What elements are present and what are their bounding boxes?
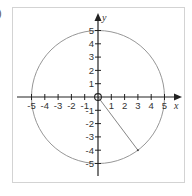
svg-text:-2: -2 — [67, 100, 75, 111]
svg-text:-4: -4 — [41, 100, 49, 111]
svg-text:4: 4 — [89, 38, 94, 49]
svg-text:2: 2 — [89, 65, 94, 76]
svg-text:-4: -4 — [86, 145, 94, 156]
svg-text:1: 1 — [109, 100, 114, 111]
svg-text:3: 3 — [89, 51, 94, 62]
radius-segment — [98, 97, 138, 150]
y-axis-label: y — [101, 12, 107, 23]
x-tick-labels: -5 -4 -3 -2 -1 1 2 3 4 5 — [27, 100, 167, 111]
y-axis-arrow-icon — [95, 13, 102, 21]
svg-text:2: 2 — [122, 100, 127, 111]
svg-text:-5: -5 — [27, 100, 35, 111]
svg-text:5: 5 — [162, 100, 167, 111]
svg-text:-1: -1 — [86, 105, 94, 116]
svg-text:-3: -3 — [86, 131, 94, 142]
svg-text:1: 1 — [89, 78, 94, 89]
svg-text:5: 5 — [89, 25, 94, 36]
svg-text:4: 4 — [149, 100, 154, 111]
svg-text:3: 3 — [135, 100, 140, 111]
coordinate-plane-figure: -5 -4 -3 -2 -1 1 2 3 4 5 5 4 3 2 1 -1 -2… — [0, 0, 192, 196]
svg-text:-5: -5 — [86, 158, 94, 169]
svg-text:-3: -3 — [54, 100, 62, 111]
x-axis-label: x — [173, 100, 179, 111]
svg-text:-2: -2 — [86, 118, 94, 129]
point-3-neg4 — [137, 149, 139, 151]
